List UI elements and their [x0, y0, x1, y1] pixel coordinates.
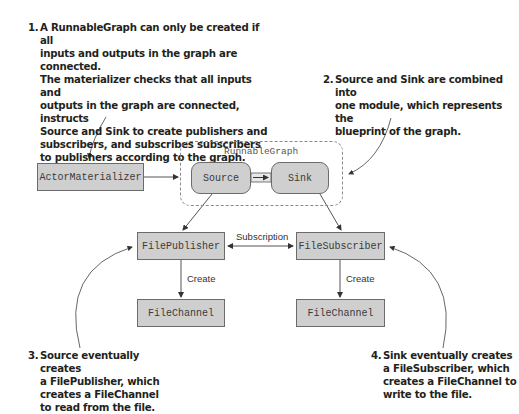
annotation-text: Sink eventually creates a FileSubscriber… [383, 349, 519, 401]
annotation-text: Source eventually creates a FilePublishe… [40, 349, 178, 414]
annotation-number: 2. [323, 73, 333, 86]
annotation-2: 2. Source and Sink are combined into one… [323, 73, 513, 138]
node-sink: Sink [271, 162, 329, 194]
annotation-number: 1. [28, 21, 38, 34]
node-file-channel-left: FileChannel [137, 299, 225, 327]
edge-label-create-right: Create [346, 273, 375, 284]
edge-label-create-left: Create [187, 273, 216, 284]
node-file-publisher: FilePublisher [137, 232, 225, 260]
leader-note-4 [390, 247, 446, 348]
annotation-4: 4. Sink eventually creates a FileSubscri… [371, 349, 519, 401]
node-file-channel-right: FileChannel [296, 299, 385, 327]
node-source: Source [191, 162, 251, 194]
annotation-3: 3. Source eventually creates a FilePubli… [28, 349, 178, 414]
leader-note-3 [76, 247, 132, 348]
annotation-text: Source and Sink are combined into one mo… [335, 73, 513, 138]
annotation-number: 3. [28, 349, 38, 362]
node-file-subscriber: FileSubscriber [296, 232, 385, 260]
runnable-graph-label: RunnableGraph [224, 146, 298, 157]
node-actor-materializer: ActorMaterializer [37, 163, 144, 191]
edge-label-subscription: Subscription [236, 231, 288, 242]
annotation-number: 4. [371, 349, 381, 362]
